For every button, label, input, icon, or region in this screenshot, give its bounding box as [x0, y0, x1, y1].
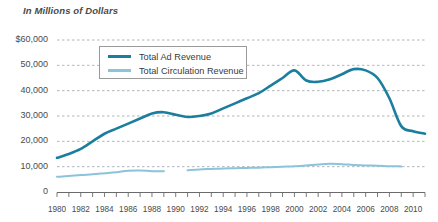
- x-axis-ticks: [57, 193, 425, 198]
- y-tick-label: 40,000: [0, 85, 48, 95]
- data-series: [57, 69, 425, 177]
- legend-item-ad-revenue: Total Ad Revenue: [100, 49, 246, 64]
- legend-item-circulation-revenue: Total Circulation Revenue: [100, 63, 246, 78]
- x-tick-label: 2010: [398, 205, 428, 214]
- y-tick-label: 50,000: [0, 59, 48, 69]
- legend-swatch-ad-revenue: [108, 55, 131, 58]
- y-tick-label: 30,000: [0, 110, 48, 120]
- y-tick-label: 10,000: [0, 161, 48, 171]
- plot-area: [0, 0, 438, 222]
- chart-legend: Total Ad Revenue Total Circulation Reven…: [99, 46, 247, 79]
- legend-label-ad-revenue: Total Ad Revenue: [139, 52, 211, 62]
- legend-label-circulation-revenue: Total Circulation Revenue: [139, 66, 244, 76]
- series-line-ad-revenue: [57, 69, 425, 158]
- legend-swatch-circulation-revenue: [108, 69, 131, 71]
- y-tick-label: $60,000: [0, 34, 48, 44]
- series-line-circulation-revenue: [57, 170, 164, 176]
- revenue-line-chart: In Millions of Dollars 010,00020,00030,0…: [0, 0, 438, 222]
- y-tick-label: 0: [0, 186, 48, 196]
- y-tick-label: 20,000: [0, 135, 48, 145]
